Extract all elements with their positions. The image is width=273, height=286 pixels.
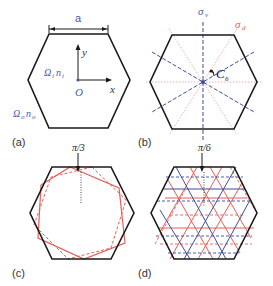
origin-label: O	[75, 86, 83, 98]
panel-label-b: (b)	[138, 136, 151, 148]
width-dimension-arrow	[49, 25, 108, 33]
c6-label: C	[216, 66, 225, 81]
coordinate-axes	[76, 44, 113, 83]
c6-sub: 6	[225, 75, 229, 83]
panel-d: π/6 (d)	[138, 142, 257, 279]
panel-a: a y x O Ω i n i Ω o n o (a)	[12, 12, 130, 148]
width-label: a	[75, 12, 82, 24]
origin-dot	[76, 78, 79, 81]
panel-label-a: (a)	[12, 136, 25, 148]
inner-omega-sub: i	[52, 72, 54, 80]
y-axis-label: y	[81, 46, 87, 58]
panel-label-d: (d)	[138, 267, 151, 279]
sigma-v-label: σ	[198, 5, 204, 17]
ray-orbit-solid	[38, 167, 125, 259]
outer-n-label: n	[26, 108, 31, 119]
panel-c: π/3 (c)	[12, 142, 134, 279]
figure-canvas: a y x O Ω i n i Ω o n o (a)	[0, 0, 273, 286]
angle-label-pi3: π/3	[72, 142, 85, 153]
sigma-v-sub: v	[205, 11, 209, 19]
sigma-d-sub: d	[242, 24, 246, 32]
inner-n-label: n	[56, 67, 61, 78]
rotation-center-dot	[201, 80, 205, 84]
angle-label-pi6: π/6	[198, 142, 211, 153]
outer-omega-sub: o	[21, 113, 25, 121]
hexagon-outline	[30, 167, 134, 259]
panel-label-c: (c)	[12, 267, 25, 279]
panel-b: C 6 σ v σ d (b)	[138, 5, 262, 148]
outer-omega-label: Ω	[13, 108, 20, 119]
sigma-d-label: σ	[235, 18, 241, 30]
hexagon-outline	[151, 167, 257, 259]
inner-n-sub: i	[62, 72, 64, 80]
inner-omega-label: Ω	[44, 67, 51, 78]
x-axis-label: x	[109, 83, 115, 95]
outer-n-sub: o	[32, 113, 36, 121]
